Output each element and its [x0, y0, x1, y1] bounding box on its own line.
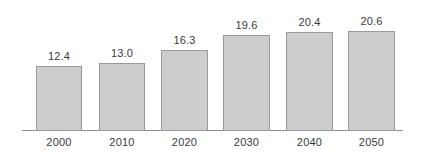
- bar-value-2050: 20.6: [348, 15, 395, 27]
- x-tick-label-2010: 2010: [99, 136, 145, 148]
- x-tick-label-2000: 2000: [36, 136, 82, 148]
- bar-chart: 12.4 2000 13.0 2010 16.3 2020 19.6 2030 …: [0, 0, 423, 159]
- bar-2050[interactable]: [348, 31, 395, 131]
- bar-value-2030: 19.6: [223, 19, 270, 31]
- bars-container: 12.4 2000 13.0 2010 16.3 2020 19.6 2030 …: [0, 0, 423, 159]
- bar-2000[interactable]: [36, 66, 82, 131]
- x-tick-label-2050: 2050: [348, 136, 395, 148]
- x-tick-label-2040: 2040: [286, 136, 333, 148]
- bar-2020[interactable]: [161, 50, 208, 131]
- bar-2030[interactable]: [223, 35, 270, 131]
- x-tick-label-2030: 2030: [223, 136, 270, 148]
- plot-area: 12.4 2000 13.0 2010 16.3 2020 19.6 2030 …: [0, 0, 423, 159]
- bar-value-2020: 16.3: [161, 34, 208, 46]
- bar-value-2040: 20.4: [286, 16, 333, 28]
- bar-value-2010: 13.0: [99, 47, 145, 59]
- bar-value-2000: 12.4: [36, 50, 82, 62]
- x-tick-label-2020: 2020: [161, 136, 208, 148]
- bar-2010[interactable]: [99, 63, 145, 131]
- bar-2040[interactable]: [286, 32, 333, 131]
